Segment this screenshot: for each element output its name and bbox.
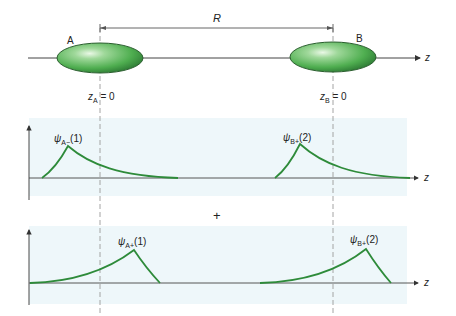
origin-a-label: zA = 0 (87, 91, 115, 104)
nucleus-b-orbital (290, 42, 376, 72)
nucleus-b-label: B (356, 33, 363, 44)
distance-r-label: R (213, 12, 221, 24)
distance-r-arrow (100, 24, 333, 32)
nucleus-a-orbital (57, 43, 143, 73)
panel1-z-label: z (423, 172, 429, 183)
diagram-svg: R z A B zA = 0 zB = 0 z ψA−(1) ψB+(2) + … (0, 0, 456, 316)
panel2-z-label: z (423, 277, 429, 288)
plus-operator: + (213, 208, 221, 223)
molecular-axis-label: z (424, 52, 430, 63)
diagram-canvas: R z A B zA = 0 zB = 0 z ψA−(1) ψB+(2) + … (0, 0, 456, 316)
nucleus-a-label: A (67, 35, 74, 46)
panel1-background (29, 118, 407, 196)
